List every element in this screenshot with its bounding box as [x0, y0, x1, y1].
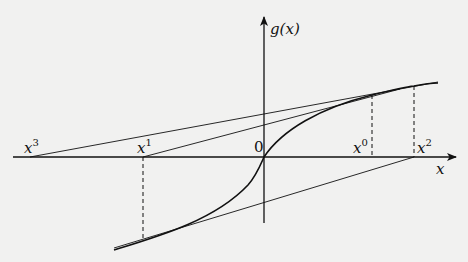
y-axis-label: g(x) [270, 22, 300, 37]
point-label-x2: x2 [417, 139, 432, 156]
point-label-x0: x0 [353, 139, 368, 156]
x-axis-label: x [436, 162, 444, 177]
point-label-x1: x1 [137, 139, 152, 156]
point-label-x3-sup: 3 [32, 137, 38, 148]
curve-g [114, 83, 438, 250]
point-label-x1-sup: 1 [145, 137, 151, 148]
diagram-canvas [0, 0, 468, 262]
point-label-x2-sup: 2 [425, 137, 431, 148]
newton-iteration-diagram: g(x) x 0 x3 x1 x0 x2 [0, 0, 468, 262]
tangent-at-x2 [30, 82, 438, 157]
point-label-x3: x3 [24, 139, 39, 156]
origin-label: 0 [254, 140, 264, 155]
point-label-x0-sup: 0 [361, 137, 367, 148]
